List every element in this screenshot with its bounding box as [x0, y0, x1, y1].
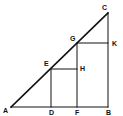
point-label-d: D	[49, 109, 54, 116]
point-label-c: C	[102, 4, 107, 11]
diagram-segments	[11, 13, 108, 107]
point-label-b: B	[106, 109, 111, 116]
point-label-f: F	[75, 109, 80, 116]
point-label-a: A	[3, 107, 8, 114]
geometry-diagram: ADFBCGKEH	[0, 0, 123, 116]
point-label-h: H	[80, 65, 85, 72]
point-label-e: E	[44, 60, 49, 67]
point-label-g: G	[70, 35, 76, 42]
point-label-k: K	[112, 40, 117, 47]
segment-ac	[11, 13, 108, 107]
